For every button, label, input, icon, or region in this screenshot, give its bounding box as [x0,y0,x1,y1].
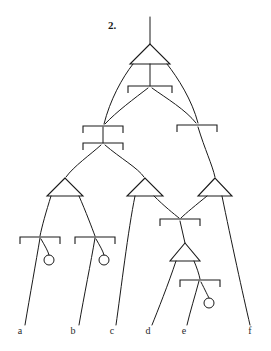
leaf-labels-group: abcdef [18,325,253,336]
branch-b-down [79,238,95,325]
branch-bracket-to-left [105,88,148,124]
triangle-lower-left [47,178,83,196]
bracket-root-child [128,86,172,93]
figure-number-label: 2. [108,19,117,31]
branch-root-right-arc [167,64,198,123]
triangle-lower-right [198,178,232,196]
circle-a [44,255,54,265]
branch-e-circle [201,282,209,298]
triangle-root [130,44,170,64]
branch-root-left-arc [104,64,133,124]
branch-smalltri-to-e [194,261,200,279]
leaf-a: a [18,325,23,336]
branch-trim-to-c [116,196,135,325]
bracket-mid-right [177,125,217,132]
circle-b [99,255,109,265]
leaf-c: c [110,325,115,336]
branch-a-down [25,238,40,325]
triangles-group [47,44,232,261]
branch-tril-to-b [79,196,95,236]
circle-e [204,298,214,308]
triangle-small-e [170,243,200,261]
bracket-mid-left-lower [83,143,123,150]
leaf-b: b [71,325,76,336]
branch-trir-to-f [222,196,250,325]
branch-midright-to-tri-right [198,127,215,177]
bracket-e [180,280,220,287]
branch-e-down [187,281,199,325]
leaf-e: e [182,325,187,336]
branch-a-circle [41,239,49,255]
branch-trir-to-de [181,196,207,218]
empty-category-circles-group [44,255,214,308]
leaf-f: f [248,325,252,336]
branch-b-circle [96,239,104,255]
branch-trim-to-de [154,196,179,218]
syntax-tree-figure: 2. abcdef [0,0,271,351]
branch-lines-group [25,17,250,325]
branch-de-to-smalltri [180,221,185,243]
branch-bracket-to-right [152,88,196,123]
tree-canvas: 2. abcdef [0,0,271,351]
branch-midleft-to-tri-mid [105,145,144,177]
branch-smalltri-to-d [152,261,176,325]
branch-tril-to-a [40,196,51,236]
triangle-lower-mid [127,178,163,196]
leaf-d: d [146,325,151,336]
